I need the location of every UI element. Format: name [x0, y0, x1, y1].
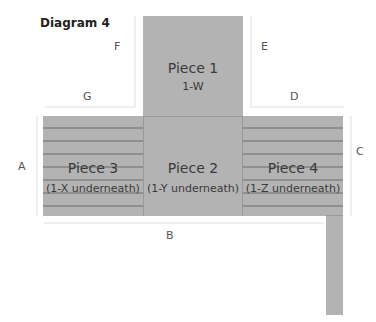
guide-line-c: [350, 116, 352, 216]
guide-line-f: [134, 16, 136, 108]
edge-label-c: C: [356, 145, 364, 158]
piece-2-label: Piece 2: [144, 160, 242, 176]
piece-3-label: Piece 3: [43, 160, 143, 176]
edge-label-e: E: [261, 40, 268, 53]
guide-line-a: [36, 116, 38, 216]
edge-label-f: F: [114, 40, 120, 53]
piece-3-sub: (1-X underneath): [43, 182, 143, 195]
piece-1[interactable]: Piece 1 1-W: [143, 16, 243, 116]
diagram-title: Diagram 4: [40, 16, 110, 30]
piece-4-label: Piece 4: [243, 160, 343, 176]
guide-line-b: [44, 222, 324, 224]
guide-line-e: [250, 16, 252, 108]
edge-label-b: B: [166, 229, 174, 242]
piece-2-sub: (1-Y underneath): [144, 182, 242, 195]
edge-label-a: A: [18, 160, 26, 173]
piece-4[interactable]: Piece 4 (1-Z underneath): [243, 116, 343, 216]
guide-line-d: [252, 106, 344, 108]
edge-label-g: G: [83, 90, 92, 103]
guide-line-g: [45, 106, 135, 108]
edge-label-d: D: [290, 90, 298, 103]
piece-2[interactable]: Piece 2 (1-Y underneath): [143, 116, 243, 216]
piece-4-sub: (1-Z underneath): [243, 182, 343, 195]
piece-4-extension-strip: [326, 215, 343, 315]
piece-3[interactable]: Piece 3 (1-X underneath): [43, 116, 143, 216]
piece-1-label: Piece 1: [143, 60, 243, 76]
piece-1-sub: 1-W: [143, 80, 243, 93]
